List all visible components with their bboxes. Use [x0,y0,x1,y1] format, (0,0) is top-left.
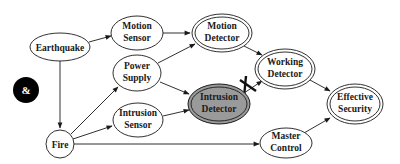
edge-motion-detector-working-detector [244,46,262,55]
node-master-control: Master Control [260,128,312,158]
edge-working-detector-effective-security [310,80,330,91]
node-master-control-label-1: Master [271,131,301,141]
node-fire-label: Fire [52,140,69,150]
node-intrusion-sensor-label-2: Sensor [124,120,152,130]
node-effective-security: Effective Security [327,84,383,124]
edge-intrusion-detector-working-detector [244,81,262,93]
node-effective-security-label-1: Effective [337,92,373,102]
edge-master-control-effective-security [304,118,330,133]
node-power-supply: Power Supply [113,55,161,91]
edge-power-supply-motion-detector [158,44,195,63]
node-intrusion-sensor-label-1: Intrusion [119,108,158,118]
node-intrusion-sensor: Intrusion Sensor [113,103,163,137]
node-master-control-label-2: Control [270,143,302,153]
node-motion-sensor: Motion Sensor [111,16,163,50]
node-motion-detector-label-1: Motion [207,21,237,31]
and-badge: & [13,77,39,103]
node-working-detector-label-2: Detector [268,69,304,79]
edge-intrusion-sensor-intrusion-detector [163,110,189,116]
node-motion-sensor-label-1: Motion [122,21,152,31]
node-effective-security-label-2: Security [338,104,372,114]
edge-fire-power-supply [71,87,118,134]
node-intrusion-detector-label-1: Intrusion [200,92,239,102]
node-earthquake-label: Earthquake [36,43,85,53]
node-intrusion-detector: Intrusion Detector [188,84,250,124]
node-motion-detector-label-2: Detector [205,33,241,43]
node-power-supply-label-2: Supply [123,73,152,83]
node-working-detector-label-1: Working [267,57,303,67]
node-motion-detector: Motion Detector [192,14,252,52]
node-earthquake: Earthquake [30,33,90,61]
node-motion-sensor-label-2: Sensor [123,33,151,43]
node-intrusion-detector-label-2: Detector [202,104,238,114]
node-fire: Fire [46,130,74,158]
edge-power-supply-intrusion-detector [160,82,189,94]
and-badge-label: & [21,84,30,96]
edge-fire-intrusion-sensor [73,126,112,139]
node-power-supply-label-1: Power [124,61,151,71]
causal-diagram: & Earthquake Motion Sensor Motion Detect… [0,0,400,164]
node-working-detector: Working Detector [255,49,315,89]
edge-earthquake-motion-sensor [89,36,111,42]
